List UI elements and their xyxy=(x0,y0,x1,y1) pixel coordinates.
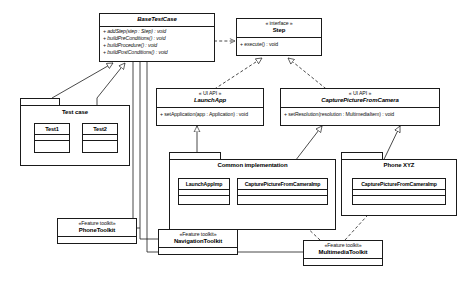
interface-capturepicturefromcamera-operations: + setResolution(resolution : MultimediaI… xyxy=(281,108,439,119)
class-launchappimp-name: LaunchAppImp xyxy=(179,179,229,190)
operation: + addStep(step : Step) : void xyxy=(103,28,211,35)
class-capturepicturefromcameraimp-common-operations xyxy=(238,196,327,201)
class-launchappimp-operations xyxy=(179,196,229,201)
class-capturepicturefromcameraimp-phone-operations xyxy=(353,196,445,201)
interface-step-operations: + execute() : void xyxy=(237,38,321,49)
class-multimediatoolkit-attributes xyxy=(304,259,382,266)
interface-launchapp-operations: + setApplication(app : Application) : vo… xyxy=(157,108,263,119)
association-basetestcase-phonetoolkit xyxy=(133,62,140,228)
interface-launchapp-header: « UI API » LaunchApp xyxy=(157,89,263,108)
class-test1-operations xyxy=(35,141,69,146)
package-test-case[interactable]: Test case Test1 Test2 xyxy=(20,98,130,166)
interface-capturepicturefromcamera-header: « UI API » CapturePictureFromCamera xyxy=(281,89,439,108)
class-multimediatoolkit[interactable]: «Feature toolkit» MultimediaToolkit xyxy=(303,240,383,266)
class-capturepicturefromcameraimp-common-name: CapturePictureFromCameraImp xyxy=(238,179,327,190)
operation: + buildProcedure() : void xyxy=(103,42,211,49)
package-phone-xyz-name: Phone XYZ xyxy=(341,162,457,168)
class-phonetoolkit-header: «Feature toolkit» PhoneToolkit xyxy=(58,219,136,237)
class-phonetoolkit-name: PhoneToolkit xyxy=(60,227,134,234)
class-phonetoolkit-attributes xyxy=(58,237,136,244)
class-basetestcase[interactable]: BaseTestCase + addStep(step : Step) : vo… xyxy=(99,13,215,62)
operation: + buildPostConditions() : void xyxy=(103,49,211,56)
class-navigationtoolkit-header: «Feature toolkit» NavigationToolkit xyxy=(159,230,237,248)
class-capturepicturefromcameraimp-common[interactable]: CapturePictureFromCameraImp xyxy=(237,178,328,205)
class-basetestcase-header: BaseTestCase xyxy=(100,14,214,27)
interface-launchapp[interactable]: « UI API » LaunchApp + setApplication(ap… xyxy=(156,88,264,126)
class-test2-name: Test2 xyxy=(83,124,117,135)
operation: + execute() : void xyxy=(240,41,318,48)
interface-launchapp-name: LaunchApp xyxy=(159,97,261,104)
operation: + buildPreConditions() : void xyxy=(103,35,211,42)
class-multimediatoolkit-name: MultimediaToolkit xyxy=(306,249,380,256)
class-basetestcase-operations: + addStep(step : Step) : void + buildPre… xyxy=(100,27,214,57)
class-test2[interactable]: Test2 xyxy=(82,123,118,153)
class-basetestcase-name: BaseTestCase xyxy=(102,16,212,23)
class-phonetoolkit-operations xyxy=(58,244,136,250)
package-test-case-name: Test case xyxy=(20,109,130,115)
realization-launchapp-step xyxy=(210,58,262,92)
class-test1-name: Test1 xyxy=(35,124,69,135)
class-test1[interactable]: Test1 xyxy=(34,123,70,153)
interface-step-name: Step xyxy=(239,27,319,34)
package-common-implementation[interactable]: Common implementation LaunchAppImp Captu… xyxy=(169,152,336,230)
package-phone-xyz[interactable]: Phone XYZ CapturePictureFromCameraImp xyxy=(341,152,457,216)
uml-diagram-canvas: Step --> xyxy=(0,0,465,286)
interface-step-header: « interface » Step xyxy=(237,19,321,38)
operation: + setResolution(resolution : MultimediaI… xyxy=(284,111,436,118)
interface-capturepicturefromcamera-name: CapturePictureFromCamera xyxy=(283,97,437,104)
class-navigationtoolkit-attributes xyxy=(159,248,237,255)
class-launchappimp[interactable]: LaunchAppImp xyxy=(178,178,230,205)
class-capturepicturefromcameraimp-phone-name: CapturePictureFromCameraImp xyxy=(353,179,445,190)
package-common-implementation-name: Common implementation xyxy=(169,162,336,168)
class-phonetoolkit[interactable]: «Feature toolkit» PhoneToolkit xyxy=(57,218,137,244)
operation: + setApplication(app : Application) : vo… xyxy=(160,111,260,118)
realization-capturepicture-step xyxy=(288,58,330,92)
class-multimediatoolkit-operations xyxy=(304,266,382,272)
class-capturepicturefromcameraimp-phone[interactable]: CapturePictureFromCameraImp xyxy=(352,178,446,205)
class-navigationtoolkit-operations xyxy=(159,255,237,261)
class-navigationtoolkit-name: NavigationToolkit xyxy=(161,238,235,245)
interface-step[interactable]: « interface » Step + execute() : void xyxy=(236,18,322,56)
class-test2-operations xyxy=(83,141,117,146)
class-multimediatoolkit-header: «Feature toolkit» MultimediaToolkit xyxy=(304,241,382,259)
interface-capturepicturefromcamera[interactable]: « UI API » CapturePictureFromCamera + se… xyxy=(280,88,440,126)
class-navigationtoolkit[interactable]: «Feature toolkit» NavigationToolkit xyxy=(158,229,238,255)
